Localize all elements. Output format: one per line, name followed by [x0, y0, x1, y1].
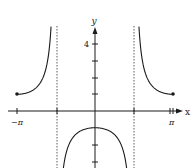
curve-left-branch	[17, 27, 51, 95]
x-axis-label: x	[185, 107, 190, 117]
y-axis-label: y	[91, 16, 98, 26]
x-tick-label-pi: π	[168, 118, 175, 127]
chart-canvas: y x 4 −π π	[0, 0, 193, 168]
x-axis-arrow-icon	[176, 109, 183, 114]
y-axis-arrow-icon	[93, 27, 98, 34]
x-tick-label-neg-pi: −π	[11, 118, 24, 127]
y-tick-label-4: 4	[84, 40, 89, 49]
endpoint-right	[171, 92, 175, 96]
endpoint-left	[15, 92, 19, 96]
curve-right-branch	[139, 27, 173, 95]
